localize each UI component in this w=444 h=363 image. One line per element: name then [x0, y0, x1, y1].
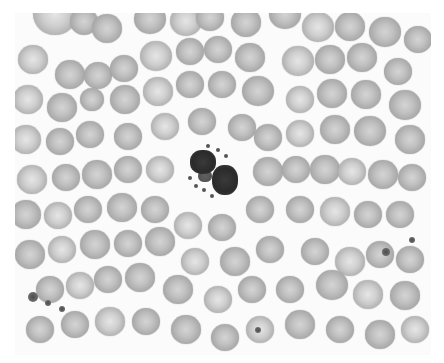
- red-blood-cell: [235, 43, 265, 72]
- red-blood-cell: [66, 272, 94, 299]
- platelet: [59, 306, 65, 312]
- red-blood-cell: [398, 164, 426, 191]
- red-blood-cell: [46, 128, 74, 155]
- red-blood-cell: [302, 13, 334, 42]
- granule: [216, 148, 220, 152]
- red-blood-cell: [80, 230, 110, 259]
- red-blood-cell: [320, 197, 350, 226]
- nucleus-lobe: [212, 165, 238, 195]
- red-blood-cell: [208, 214, 236, 241]
- red-blood-cell: [171, 315, 201, 344]
- red-blood-cell: [282, 46, 314, 76]
- granule: [188, 176, 192, 180]
- red-blood-cell: [204, 286, 232, 313]
- red-blood-cell: [163, 275, 193, 304]
- red-blood-cell: [84, 62, 112, 89]
- red-blood-cell: [82, 160, 112, 189]
- red-blood-cell: [320, 115, 350, 144]
- red-blood-cell: [204, 36, 232, 63]
- red-blood-cell: [338, 158, 366, 185]
- red-blood-cell: [15, 125, 41, 154]
- red-blood-cell: [366, 241, 394, 268]
- red-blood-cell: [246, 196, 274, 223]
- platelet: [382, 248, 390, 256]
- red-blood-cell: [369, 17, 401, 47]
- red-blood-cell: [276, 276, 304, 303]
- red-blood-cell: [242, 76, 274, 106]
- red-blood-cell: [48, 236, 76, 263]
- red-blood-cell: [114, 156, 142, 183]
- granule: [206, 144, 210, 148]
- red-blood-cell: [92, 14, 122, 43]
- red-blood-cell: [94, 266, 122, 293]
- red-blood-cell: [353, 280, 383, 309]
- red-blood-cell: [256, 236, 284, 263]
- red-blood-cell: [74, 196, 102, 223]
- red-blood-cell: [310, 155, 340, 184]
- granule: [210, 194, 214, 198]
- nucleus-lobe: [198, 170, 212, 182]
- red-blood-cell: [368, 160, 398, 189]
- red-blood-cell: [15, 200, 41, 229]
- red-blood-cell: [301, 238, 329, 265]
- red-blood-cell: [76, 121, 104, 148]
- red-blood-cell: [114, 123, 142, 150]
- red-blood-cell: [47, 93, 77, 122]
- red-blood-cell: [315, 45, 345, 74]
- red-blood-cell: [286, 196, 314, 223]
- red-blood-cell: [335, 13, 365, 41]
- platelet: [409, 237, 415, 243]
- red-blood-cell: [114, 230, 142, 257]
- red-blood-cell: [15, 85, 43, 114]
- red-blood-cell: [110, 85, 140, 114]
- platelet: [45, 300, 51, 306]
- micrograph: [15, 13, 431, 355]
- red-blood-cell: [15, 240, 45, 269]
- red-blood-cell: [52, 164, 80, 191]
- red-blood-cell: [396, 246, 424, 273]
- red-blood-cell: [228, 114, 256, 141]
- red-blood-cell: [140, 41, 172, 71]
- red-blood-cell: [282, 156, 310, 183]
- red-blood-cell: [143, 77, 173, 106]
- red-blood-cell: [110, 55, 138, 82]
- red-blood-cell: [174, 212, 202, 239]
- red-blood-cell: [286, 86, 314, 113]
- red-blood-cell: [365, 320, 395, 349]
- red-blood-cell: [211, 324, 239, 351]
- red-blood-cell: [404, 26, 431, 53]
- red-blood-cell: [238, 276, 266, 303]
- red-blood-cell: [220, 247, 250, 276]
- granule: [194, 184, 198, 188]
- red-blood-cell: [18, 45, 48, 74]
- red-blood-cell: [151, 113, 179, 140]
- red-blood-cell: [354, 116, 386, 146]
- platelet: [28, 292, 38, 302]
- red-blood-cell: [384, 58, 412, 85]
- granule: [224, 154, 228, 158]
- red-blood-cell: [145, 227, 175, 256]
- red-blood-cell: [188, 108, 216, 135]
- red-blood-cell: [17, 165, 47, 194]
- red-blood-cell: [176, 38, 204, 65]
- red-blood-cell: [146, 156, 174, 183]
- red-blood-cell: [132, 308, 160, 335]
- red-blood-cell: [386, 201, 414, 228]
- red-blood-cell: [26, 316, 54, 343]
- red-blood-cell: [286, 120, 314, 147]
- red-blood-cell: [253, 157, 283, 186]
- granule: [202, 188, 206, 192]
- red-blood-cell: [389, 90, 421, 120]
- red-blood-cell: [208, 71, 236, 98]
- red-blood-cell: [80, 88, 104, 111]
- red-blood-cell: [196, 13, 224, 31]
- red-blood-cell: [44, 202, 72, 229]
- red-blood-cell: [107, 193, 137, 222]
- red-blood-cell: [269, 13, 301, 29]
- red-blood-cell: [254, 124, 282, 151]
- red-blood-cell: [141, 196, 169, 223]
- red-blood-cell: [326, 316, 354, 343]
- red-blood-cell: [125, 263, 155, 292]
- red-blood-cell: [181, 248, 209, 275]
- red-blood-cell: [95, 307, 125, 336]
